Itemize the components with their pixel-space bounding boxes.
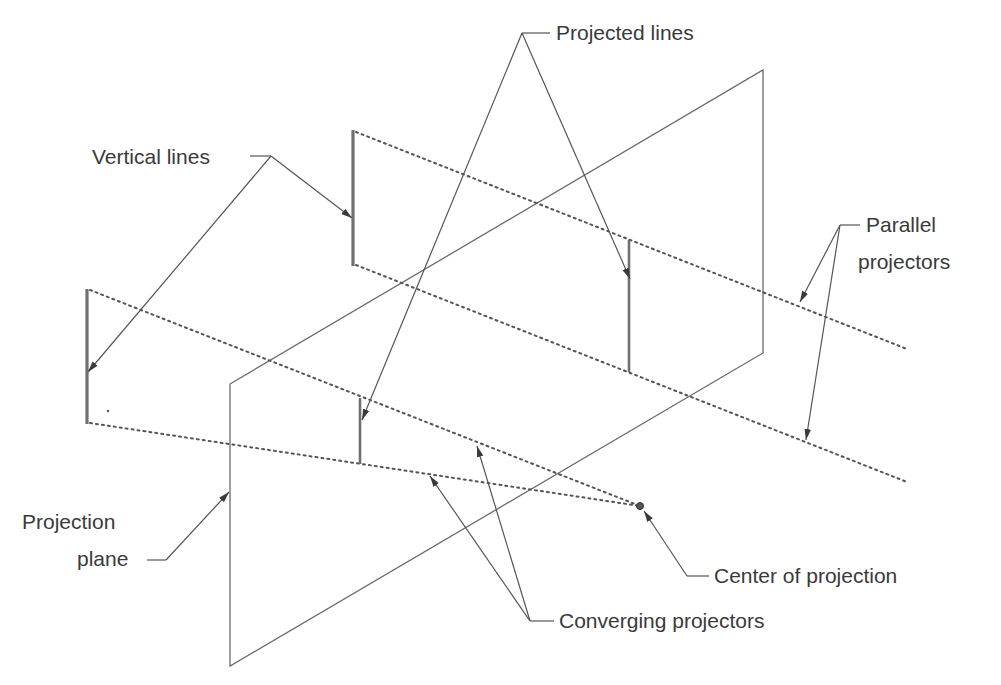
center-of-projection-arrow: [644, 511, 687, 576]
projected-lines-arrow-1: [522, 33, 630, 279]
parallel-projector-top: [356, 132, 907, 349]
converging-projectors-label: Converging projectors: [559, 609, 764, 632]
parallel-projectors-label-line1: Parallel: [866, 213, 936, 236]
vertical-lines-label: Vertical lines: [92, 145, 210, 168]
center-of-projection-label: Center of projection: [714, 564, 897, 587]
converging-projectors-arrow-1: [430, 476, 530, 621]
projection-plane-label-line2: plane: [77, 547, 128, 570]
center-of-projection-point: [637, 503, 644, 510]
projection-plane: [230, 70, 763, 666]
parallel-projector-bottom: [356, 265, 907, 482]
stray-dot: [107, 410, 109, 412]
projection-diagram: Projected lines Vertical lines Parallel …: [0, 0, 1001, 685]
converging-projectors-arrow-2: [477, 446, 530, 621]
vertical-lines-arrow-1: [271, 156, 352, 218]
converging-projector-bottom: [90, 423, 640, 506]
projection-plane-label-line1: Projection: [22, 510, 115, 533]
projected-lines-label: Projected lines: [556, 21, 694, 44]
vertical-lines-arrow-2: [88, 156, 271, 372]
parallel-projectors-label-line2: projectors: [858, 250, 950, 273]
projection-plane-arrow: [166, 492, 229, 560]
